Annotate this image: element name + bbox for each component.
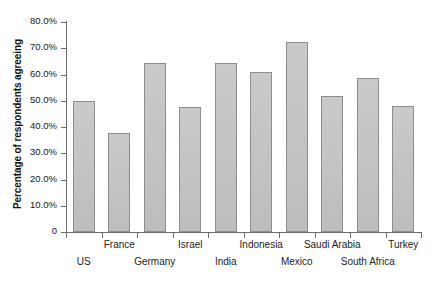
bar-india — [215, 63, 237, 232]
x-label-turkey: Turkey — [388, 239, 418, 250]
y-tick-label-8: 0 — [52, 225, 57, 236]
x-tick-8 — [386, 233, 387, 238]
plot-area — [66, 14, 421, 232]
x-tick-6 — [315, 233, 316, 238]
y-tick-label-4: 40.0% — [30, 120, 57, 131]
bar-indonesia — [250, 72, 272, 232]
y-tick-label-3: 50.0% — [30, 94, 57, 105]
bar-south-africa — [357, 78, 379, 232]
bar-us — [73, 101, 95, 232]
x-tick-3 — [208, 233, 209, 238]
x-tick-4 — [244, 233, 245, 238]
x-label-south-africa: South Africa — [341, 256, 395, 267]
x-tick-1 — [137, 233, 138, 238]
x-tick-origin — [66, 233, 67, 238]
x-tick-0 — [102, 233, 103, 238]
x-tick-5 — [279, 233, 280, 238]
bar-turkey — [392, 106, 414, 232]
x-label-mexico: Mexico — [281, 256, 313, 267]
x-label-india: India — [215, 256, 237, 267]
x-tick-2 — [173, 233, 174, 238]
x-label-us: US — [77, 256, 91, 267]
x-label-saudi-arabia: Saudi Arabia — [304, 239, 361, 250]
y-tick-label-0: 80.0% — [30, 15, 57, 26]
bar-germany — [144, 63, 166, 232]
x-label-israel: Israel — [178, 239, 202, 250]
y-axis-title: Percentage of respondents agreeing — [9, 8, 27, 240]
y-tick-label-5: 30.0% — [30, 146, 57, 157]
y-tick-label-2: 60.0% — [30, 68, 57, 79]
x-label-france: France — [104, 239, 135, 250]
x-label-indonesia: Indonesia — [240, 239, 283, 250]
x-tick-9 — [421, 233, 422, 238]
y-tick-label-6: 20.0% — [30, 173, 57, 184]
x-label-germany: Germany — [134, 256, 175, 267]
y-tick-label-1: 70.0% — [30, 41, 57, 52]
bar-saudi-arabia — [321, 96, 343, 233]
y-tick-label-7: 10.0% — [30, 199, 57, 210]
x-tick-7 — [350, 233, 351, 238]
bar-mexico — [286, 42, 308, 232]
bar-israel — [179, 107, 201, 232]
bar-chart-figure: Percentage of respondents agreeing 80.0%… — [0, 0, 439, 283]
bar-france — [108, 133, 130, 232]
